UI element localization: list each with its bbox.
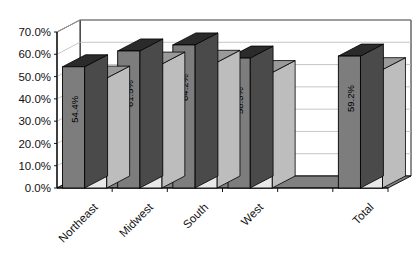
bar-series-1[interactable] [338, 56, 360, 188]
y-axis-label: 70.0% [18, 26, 51, 38]
bar-side-series-2 [217, 50, 240, 188]
bar-side-series-2 [272, 61, 295, 188]
x-axis-category-label: Total [350, 201, 376, 227]
bar-value-label: 54.4% [69, 95, 80, 122]
x-axis-category-label: Midwest [117, 200, 156, 239]
y-axis-label: 40.0% [18, 93, 51, 105]
y-axis-label: 0.0% [25, 182, 51, 194]
y-axis-label: 20.0% [18, 138, 51, 150]
bar-side-series-1 [195, 33, 218, 188]
chart-container: 0.0%10.0%20.0%30.0%40.0%50.0%60.0%70.0%5… [0, 0, 412, 262]
bar-side-series-1 [250, 46, 273, 188]
y-axis-label: 30.0% [18, 115, 51, 127]
x-axis-category-label: Northeast [56, 200, 100, 244]
y-axis-label: 60.0% [18, 48, 51, 60]
y-axis-label: 10.0% [18, 160, 51, 172]
bar-side-series-2 [382, 58, 405, 188]
x-axis-category-label: South [181, 201, 211, 231]
x-axis-category-label: West [239, 200, 266, 227]
bar-side-series-1 [85, 55, 108, 188]
bar-chart-3d: 0.0%10.0%20.0%30.0%40.0%50.0%60.0%70.0%5… [0, 0, 412, 262]
bar-value-label: 59.2% [345, 85, 356, 112]
bar-side-series-1 [360, 44, 383, 188]
bar-side-series-1 [140, 39, 163, 188]
y-axis-label: 50.0% [18, 71, 51, 83]
bar-side-series-2 [162, 52, 185, 188]
bar-side-series-2 [107, 66, 130, 188]
bar-series-1[interactable] [63, 67, 85, 188]
